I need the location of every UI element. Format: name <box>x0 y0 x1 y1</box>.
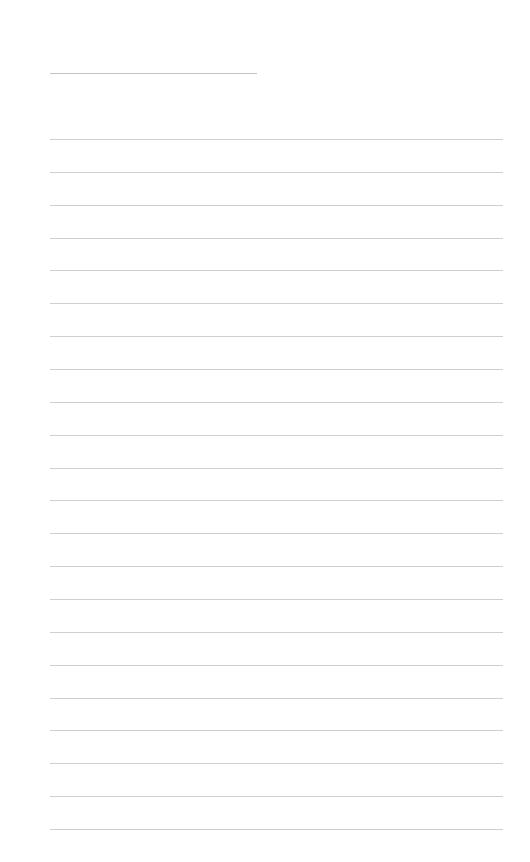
ruled-line <box>50 533 503 534</box>
title-line <box>50 73 257 74</box>
ruled-line <box>50 468 503 469</box>
ruled-line <box>50 336 503 337</box>
lined-paper-page <box>0 0 530 862</box>
ruled-line <box>50 599 503 600</box>
ruled-line <box>50 829 503 830</box>
ruled-line <box>50 665 503 666</box>
ruled-line <box>50 270 503 271</box>
ruled-line <box>50 566 503 567</box>
ruled-line <box>50 763 503 764</box>
ruled-line <box>50 303 503 304</box>
ruled-line <box>50 139 503 140</box>
ruled-line <box>50 632 503 633</box>
ruled-line <box>50 369 503 370</box>
ruled-line <box>50 402 503 403</box>
ruled-line <box>50 796 503 797</box>
ruled-line <box>50 205 503 206</box>
ruled-line <box>50 172 503 173</box>
ruled-line <box>50 698 503 699</box>
ruled-line <box>50 435 503 436</box>
ruled-line <box>50 500 503 501</box>
ruled-line <box>50 730 503 731</box>
ruled-line <box>50 238 503 239</box>
